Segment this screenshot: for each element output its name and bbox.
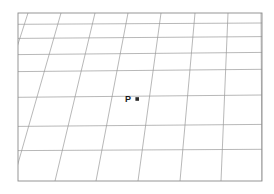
point-p-label: P (125, 94, 131, 104)
figure-root: P (0, 0, 274, 194)
point-p-marker (135, 97, 139, 101)
perspective-grid: P (0, 0, 274, 194)
